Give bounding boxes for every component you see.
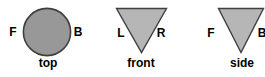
front-view-right-letter: R: [157, 27, 166, 39]
side-view-left-letter: F: [207, 27, 214, 39]
top-view-left-letter: F: [9, 26, 16, 38]
orientation-views-diagram: F B top L R front F B side: [0, 0, 265, 77]
circle-shape: [23, 8, 70, 55]
top-view-circle-icon: [22, 7, 72, 57]
front-view-left-letter: L: [117, 27, 124, 39]
top-view-right-letter: B: [74, 26, 83, 38]
top-view-label: top: [39, 57, 58, 69]
front-view-label: front: [127, 57, 154, 69]
side-view-label: side: [230, 57, 254, 69]
side-view-right-letter: B: [258, 27, 265, 39]
